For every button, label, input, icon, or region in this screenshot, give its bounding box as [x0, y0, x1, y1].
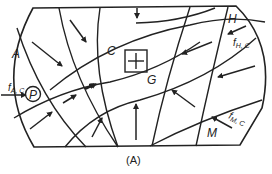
- field-line: [150, 100, 262, 146]
- arrow: [70, 20, 86, 42]
- arrow: [172, 90, 195, 107]
- label-a: A: [11, 47, 20, 61]
- label-h: H: [228, 12, 237, 26]
- field-line: [50, 19, 265, 90]
- force-label-m-c: fM, C: [227, 110, 249, 128]
- force-field-diagram: P A C G H M fA, C fH, C fM, C (A): [0, 0, 272, 174]
- label-c: C: [107, 44, 116, 58]
- arrow: [218, 66, 255, 77]
- arrow: [32, 42, 62, 66]
- arrow: [30, 112, 52, 129]
- field-line: [136, 8, 215, 23]
- arrow: [228, 26, 246, 34]
- force-label-h-c: fH, C: [233, 37, 251, 49]
- label-g: G: [147, 73, 156, 87]
- field-line: [97, 8, 118, 147]
- label-m: M: [207, 126, 217, 140]
- label-p: P: [29, 88, 37, 102]
- force-label-a-c: fA, C: [8, 82, 25, 94]
- field-line: [17, 28, 86, 147]
- figure-caption: (A): [126, 154, 141, 166]
- arrow: [63, 95, 76, 103]
- field-line: [65, 38, 256, 147]
- field-line: [152, 7, 190, 146]
